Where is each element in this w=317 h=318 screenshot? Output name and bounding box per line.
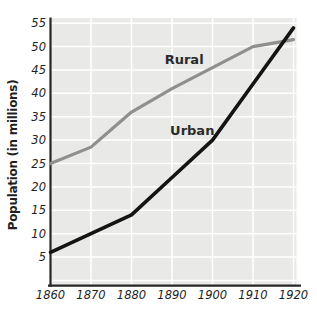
x-tick-label: 1910 [238, 288, 267, 302]
y-tick-label: 30 [31, 133, 46, 147]
y-tick-label: 10 [31, 227, 46, 241]
y-tick-label: 15 [31, 203, 46, 217]
y-tick-label: 5 [39, 250, 46, 264]
x-tick-label: 1900 [198, 288, 227, 302]
chart-canvas: RuralUrban510152025303540455055186018701… [0, 0, 317, 318]
y-tick-label: 35 [31, 110, 46, 124]
y-axis-title: Population (in millions) [6, 80, 20, 231]
rural-series-label: Rural [165, 52, 204, 67]
x-tick-label: 1920 [279, 288, 308, 302]
y-tick-label: 20 [31, 180, 46, 194]
population-line-chart-figure: RuralUrban510152025303540455055186018701… [0, 0, 317, 318]
y-tick-label: 25 [31, 157, 46, 171]
urban-series-label: Urban [170, 123, 214, 138]
x-tick-label: 1880 [117, 288, 146, 302]
x-tick-label: 1870 [76, 288, 105, 302]
y-tick-label: 50 [31, 40, 46, 54]
y-tick-label: 55 [31, 16, 46, 30]
y-tick-label: 45 [31, 63, 46, 77]
y-tick-label: 40 [31, 86, 46, 100]
x-tick-label: 1890 [157, 288, 186, 302]
x-tick-label: 1860 [36, 288, 65, 302]
